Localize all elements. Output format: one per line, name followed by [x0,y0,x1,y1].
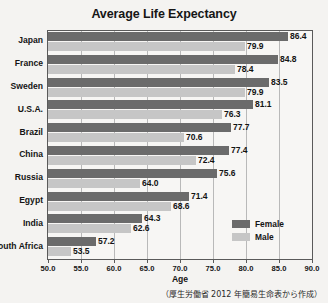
x-axis-tick-label: 80.0 [229,264,263,273]
bar-female [48,78,269,87]
chart-legend: FemaleMale [232,219,304,245]
bar-female [48,55,278,64]
x-axis-tick-label: 70.0 [163,264,197,273]
bar-value-label: 75.6 [219,169,236,178]
bar-group: 84.878.4 [48,54,312,77]
y-axis-label-china: China [0,149,43,159]
bar-female [48,192,189,201]
x-axis-tick [180,260,181,263]
y-axis-label-japan: Japan [0,35,43,45]
x-axis-tick-label: 85.0 [262,264,296,273]
source-footnote: （厚生労働省 2012 年簡易生命表から作成） [161,288,322,299]
bar-female [48,32,288,41]
bar-female [48,237,96,246]
x-axis-tick [312,260,313,263]
y-axis-label-south-africa: South Africa [0,241,43,251]
x-axis-tick-label: 55.0 [64,264,98,273]
bar-group: 75.664.0 [48,168,312,191]
x-axis-tick-label: 75.0 [196,264,230,273]
bar-value-label: 53.5 [73,247,90,256]
bar-value-label: 71.4 [191,192,208,201]
legend-swatch-female [232,220,250,228]
bar-value-label: 64.3 [144,214,161,223]
y-axis-category-labels: JapanFranceSwedenU.S.A.BrazilChinaRussia… [0,30,47,260]
legend-item-female: Female [232,219,304,229]
legend-item-male: Male [232,232,304,242]
bar-male [48,65,235,74]
bar-male [48,179,140,188]
bar-value-label: 72.4 [198,156,215,165]
y-axis-label-russia: Russia [0,172,43,182]
bar-group: 81.176.3 [48,99,312,122]
x-axis-tick-label: 50.0 [31,264,65,273]
y-axis-label-u-s-a: U.S.A. [0,104,43,114]
bar-female [48,146,229,155]
y-axis-label-brazil: Brazil [0,127,43,137]
bar-male [48,88,245,97]
x-axis-tick-label: 60.0 [97,264,131,273]
x-axis-tick [147,260,148,263]
bar-male [48,224,131,233]
x-axis-tick-label: 90.0 [295,264,328,273]
bar-female [48,214,142,223]
bar-female [48,169,217,178]
bar-male [48,156,196,165]
x-axis-tick [213,260,214,263]
bar-value-label: 77.4 [231,146,248,155]
bar-value-label: 57.2 [98,237,115,246]
x-axis: 50.055.060.065.070.075.080.085.090.0 [47,260,313,274]
bar-female [48,100,253,109]
x-axis-tick-label: 65.0 [130,264,164,273]
bar-value-label: 70.6 [186,133,203,142]
x-axis-title: Age [47,274,313,284]
x-axis-tick [48,260,49,263]
x-axis-tick [81,260,82,263]
bar-value-label: 78.4 [237,65,254,74]
x-axis-tick [114,260,115,263]
bar-group: 83.579.9 [48,77,312,100]
gridline [312,31,313,259]
legend-label: Female [255,219,284,229]
bar-group: 77.472.4 [48,145,312,168]
bar-value-label: 62.6 [133,224,150,233]
y-axis-label-france: France [0,58,43,68]
y-axis-label-india: India [0,218,43,228]
y-axis-label-sweden: Sweden [0,81,43,91]
x-axis-tick [279,260,280,263]
y-axis-label-egypt: Egypt [0,195,43,205]
bar-value-label: 84.8 [280,55,297,64]
bar-value-label: 79.9 [247,42,264,51]
bar-value-label: 77.7 [233,123,250,132]
chart-figure: Average Life Expectancy 86.479.984.878.4… [0,0,328,303]
bar-male [48,110,222,119]
bar-group: 86.479.9 [48,31,312,54]
chart-title: Average Life Expectancy [0,7,328,21]
bar-value-label: 76.3 [224,110,241,119]
legend-label: Male [255,232,274,242]
bar-value-label: 79.9 [247,88,264,97]
bar-value-label: 64.0 [142,179,159,188]
bar-male [48,42,245,51]
bar-group: 71.468.6 [48,191,312,214]
bar-male [48,247,71,256]
bar-value-label: 83.5 [271,78,288,87]
legend-swatch-male [232,233,250,241]
bar-value-label: 81.1 [255,100,272,109]
bar-male [48,133,184,142]
bar-value-label: 68.6 [173,202,190,211]
bar-value-label: 86.4 [290,32,307,41]
bar-female [48,123,231,132]
x-axis-tick [246,260,247,263]
bar-male [48,202,171,211]
bar-group: 77.770.6 [48,122,312,145]
